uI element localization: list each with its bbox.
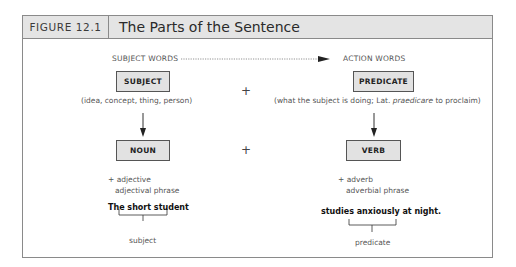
- predicate-box: PREDICATE: [353, 71, 414, 92]
- subject-label: subject: [129, 236, 156, 245]
- latin-term: praedicare: [393, 96, 433, 105]
- verb-box: VERB: [346, 140, 401, 161]
- noun-box: NOUN: [116, 140, 170, 161]
- example-subject-phrase: The short student: [108, 203, 189, 212]
- down-arrow-icon: [371, 128, 377, 137]
- predicate-description: (what the subject is doing; Lat. praedic…: [274, 96, 481, 105]
- adjective-modifier: + adjective: [108, 175, 151, 184]
- diagram-connectors: [0, 0, 516, 267]
- subject-box: SUBJECT: [116, 71, 170, 92]
- example-predicate-phrase: studies anxiously at night.: [321, 207, 441, 216]
- subject-words-heading: SUBJECT WORDS: [112, 54, 178, 63]
- subject-description: (idea, concept, thing, person): [81, 96, 192, 105]
- adverb-modifier: + adverb: [338, 175, 373, 184]
- predicate-label: predicate: [355, 238, 390, 247]
- plus-sign: +: [241, 84, 251, 98]
- predicate-bracket: [349, 219, 396, 225]
- arrowhead-icon: [318, 56, 330, 62]
- action-words-heading: ACTION WORDS: [343, 54, 405, 63]
- predicate-description-text: (what the subject is doing; Lat.: [274, 96, 393, 105]
- predicate-description-text-end: to proclaim): [433, 96, 481, 105]
- plus-sign: +: [241, 143, 251, 157]
- down-arrow-icon: [140, 128, 146, 137]
- adjectival-phrase-modifier: adjectival phrase: [115, 186, 179, 195]
- adverbial-phrase-modifier: adverbial phrase: [346, 186, 409, 195]
